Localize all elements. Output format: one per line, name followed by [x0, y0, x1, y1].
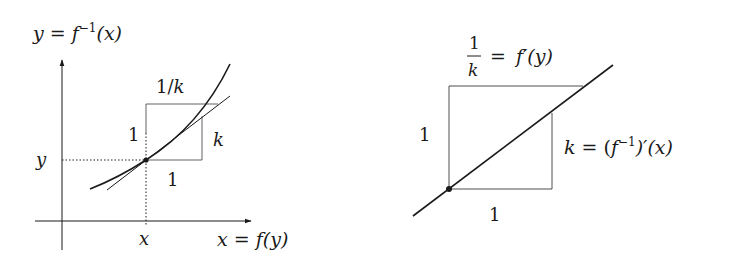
inverse-derivative-figure: y = f−1(x) 1/k 1 k 1 y x x = f(y) 1 k = …: [0, 0, 734, 262]
title-arg: (x): [96, 22, 122, 44]
y-axis-title: y = f−1(x): [32, 21, 122, 44]
title-sup: −1: [79, 21, 97, 35]
box-left-label: 1: [128, 124, 139, 145]
top-rhs: f′(y): [514, 45, 553, 67]
title-y: y: [32, 22, 44, 44]
box-top-one: 1/: [156, 76, 174, 97]
right-eq: = (: [576, 136, 611, 158]
tangent-point: [143, 157, 148, 162]
fraction-numerator: 1: [469, 33, 480, 53]
right-side-label: k = (f−1)′(x): [564, 135, 673, 158]
x-axis-title: x = f(y): [217, 228, 288, 250]
xtitle-arg: (y): [263, 228, 289, 250]
x-tick-label: x: [139, 228, 149, 249]
box-top-label: 1/k: [156, 76, 184, 97]
box-top-k: k: [174, 76, 185, 97]
title-eq: =: [44, 22, 72, 44]
top-prime-arg: ′(y): [523, 45, 553, 67]
y-tick-label: y: [35, 149, 47, 170]
right-tail: )′(x): [635, 136, 673, 158]
left-diagram: y = f−1(x) 1/k 1 k 1 y x x = f(y): [32, 21, 288, 250]
xtitle-x: x: [217, 228, 228, 250]
slope-box: [146, 104, 218, 133]
box-right-label: k: [213, 129, 224, 150]
fraction-denominator: k: [468, 60, 478, 80]
top-label: 1 k = f′(y): [467, 33, 553, 80]
top-eq: =: [490, 45, 506, 67]
bottom-side-label: 1: [489, 204, 500, 225]
right-diagram: 1 k = f′(y) 1 1 k = (f−1)′(x): [413, 33, 673, 225]
right-sup: −1: [618, 135, 636, 149]
tangent-point-magnified: [446, 186, 452, 192]
right-k: k: [564, 136, 576, 158]
box-bottom-label: 1: [167, 169, 178, 190]
xtitle-eq: =: [228, 228, 256, 250]
left-side-label: 1: [419, 124, 430, 145]
